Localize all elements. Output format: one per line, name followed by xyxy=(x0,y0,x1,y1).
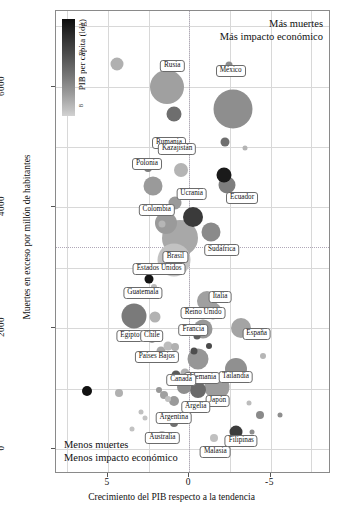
annotation-less-economic-impact: Menos impacto económico xyxy=(64,451,178,464)
bubble-unlabeled[interactable] xyxy=(165,396,171,402)
colorbar-gradient xyxy=(62,19,75,116)
x-axis-tick-mark xyxy=(270,473,271,477)
point-label-reino-unido: Reino Unido xyxy=(181,307,226,319)
y-axis-tick-label: 4000 xyxy=(0,196,6,216)
point-label-kazajist-n: Kazajistán xyxy=(158,143,196,155)
bubble-chart-figure: RusiaRumaniaMéxicoKazajistánPoloniaEcuad… xyxy=(0,0,343,506)
point-label-m-xico: México xyxy=(216,65,246,77)
bubble-unlabeled[interactable] xyxy=(158,221,165,228)
annotation-top-right: Más muertes Más impacto económico xyxy=(220,17,323,43)
point-label-sud-frica: Sudáfrica xyxy=(204,244,240,256)
point-label-chile: Chile xyxy=(140,330,164,342)
x-axis-tick-label: 0 xyxy=(186,477,191,487)
point-label-malasia: Malasia xyxy=(200,446,231,458)
gridline-vertical xyxy=(108,11,109,472)
point-label-espa-a: España xyxy=(242,328,271,340)
point-label-guatemala: Guatemala xyxy=(123,287,162,299)
colorbar-legend: 891011 PIB per cápita (log) xyxy=(62,17,108,142)
y-axis-title: Muertes en exceso por millón de habitant… xyxy=(22,122,32,352)
gridline-vertical xyxy=(149,11,150,472)
point-label-brasil: Brasil xyxy=(163,251,188,263)
point-label-pa-ses-bajos: Países Bajos xyxy=(135,351,179,363)
y-axis-tick-label: 2000 xyxy=(0,317,6,337)
bubble-unlabeled[interactable] xyxy=(115,389,123,397)
bubble-unlabeled[interactable] xyxy=(221,138,230,147)
bubble-egipto[interactable] xyxy=(122,304,147,329)
y-axis-tick-mark xyxy=(51,86,55,87)
bubble-sud-frica[interactable] xyxy=(202,222,221,241)
bubble-unlabeled[interactable] xyxy=(242,146,247,151)
annotation-more-deaths: Más muertes xyxy=(220,17,323,30)
x-axis-tick-label: -5 xyxy=(265,477,274,487)
bubble-unlabeled[interactable] xyxy=(130,427,135,432)
bubble-polonia[interactable] xyxy=(143,176,162,195)
bubble-unlabeled[interactable] xyxy=(206,343,212,349)
point-label-polonia: Polonia xyxy=(132,158,162,170)
bubble-unlabeled[interactable] xyxy=(191,348,198,355)
annotation-more-economic-impact: Más impacto económico xyxy=(220,30,323,43)
bubble-unlabeled[interactable] xyxy=(150,311,161,322)
bubble-unlabeled[interactable] xyxy=(143,415,148,420)
gridline-vertical xyxy=(271,11,272,472)
gridline-horizontal-minor xyxy=(56,268,329,269)
gridline-vertical xyxy=(311,11,312,472)
point-label-ecuador: Ecuador xyxy=(226,192,258,204)
x-axis-tick-mark xyxy=(188,473,189,477)
y-axis-tick-mark xyxy=(51,206,55,207)
x-axis-tick-mark xyxy=(107,473,108,477)
point-label-ucrania: Ucrania xyxy=(176,188,207,200)
bubble-unlabeled[interactable] xyxy=(138,409,143,414)
point-label-italia: Italia xyxy=(209,291,232,303)
colorbar-title: PIB per cápita (log) xyxy=(77,19,87,90)
bubble-ucrania[interactable] xyxy=(183,207,203,227)
x-axis-tick-label: 5 xyxy=(104,477,109,487)
bubble-rumania[interactable] xyxy=(166,107,181,122)
y-axis-tick-mark xyxy=(51,448,55,449)
bubble-unlabeled[interactable] xyxy=(217,168,232,183)
bubble-m-xico[interactable] xyxy=(214,89,253,128)
annotation-fewer-deaths: Menos muertes xyxy=(64,438,178,451)
point-label-tailandia: Tailandia xyxy=(218,371,253,383)
bubble-kazajist-n[interactable] xyxy=(174,163,188,177)
plot-area: RusiaRumaniaMéxicoKazajistánPoloniaEcuad… xyxy=(55,10,330,473)
point-label-canad-: Canadá xyxy=(166,374,196,386)
bubble-guatemala[interactable] xyxy=(145,274,154,283)
bubble-unlabeled[interactable] xyxy=(110,58,123,71)
y-axis-tick-label: 0 xyxy=(0,446,6,451)
point-label-argentina: Argentina xyxy=(155,412,192,424)
y-axis-tick-label: 6000 xyxy=(0,76,6,96)
point-label-estados-unidos: Estados Unidos xyxy=(133,263,186,275)
bubble-unlabeled[interactable] xyxy=(246,401,251,406)
x-axis-title: Crecimiento del PIB respecto a la tenden… xyxy=(0,492,343,502)
bubble-unlabeled[interactable] xyxy=(260,353,266,359)
point-label-colombia: Colombia xyxy=(139,204,175,216)
bubble-unlabeled[interactable] xyxy=(156,387,162,393)
bubble-rusia[interactable] xyxy=(150,70,184,104)
bubble-unlabeled[interactable] xyxy=(82,386,92,396)
y-axis-tick-mark xyxy=(51,327,55,328)
bubble-unlabeled[interactable] xyxy=(256,411,264,419)
bubble-unlabeled[interactable] xyxy=(249,429,254,434)
annotation-bottom-left: Menos muertes Menos impacto económico xyxy=(64,438,178,464)
point-label-rusia: Rusia xyxy=(160,60,184,72)
point-label-francia: Francia xyxy=(179,324,209,336)
bubble-malasia[interactable] xyxy=(210,434,218,442)
colorbar-tick-8: 8 xyxy=(77,104,84,107)
bubble-unlabeled[interactable] xyxy=(278,413,283,418)
